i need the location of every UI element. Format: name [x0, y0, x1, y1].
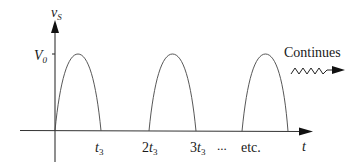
continues-arrowhead-icon	[332, 66, 345, 74]
v0-label: V0	[34, 48, 48, 65]
x-axis-arrow-icon	[299, 128, 313, 136]
tick-label-3t3: 3t3	[190, 140, 206, 157]
wavy-arrow-icon	[291, 68, 334, 74]
x-axis: t	[20, 128, 313, 155]
pulse-2	[149, 54, 196, 131]
y-axis-label: vS	[51, 5, 62, 22]
ellipsis-label: ...	[217, 138, 227, 153]
pulse-1	[55, 54, 101, 131]
continues-annotation: Continues	[284, 45, 345, 74]
waveform-diagram: vS V0 t t3 2t3 3t3 ... etc. Continues	[0, 0, 363, 168]
continues-label: Continues	[284, 45, 341, 60]
y-axis: vS V0	[34, 5, 62, 162]
tick-label-t3: t3	[95, 140, 104, 157]
etc-label: etc.	[241, 140, 261, 155]
tick-label-2t3: 2t3	[142, 140, 158, 157]
pulse-3	[242, 54, 288, 131]
x-axis-label: t	[302, 139, 307, 154]
